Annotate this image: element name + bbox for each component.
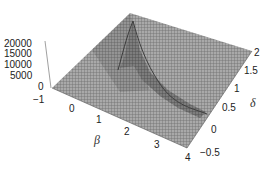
beta-tick: 2 bbox=[124, 127, 130, 137]
delta-tick: 1 bbox=[234, 84, 240, 94]
beta-tick: 4 bbox=[185, 153, 191, 163]
z-axis-line bbox=[45, 41, 51, 88]
z-tick: 10000 bbox=[4, 60, 32, 70]
z-tick: 15000 bbox=[4, 49, 32, 59]
delta-tick: 0.5 bbox=[222, 103, 236, 113]
beta-tick: 0 bbox=[69, 104, 75, 114]
delta-tick: 1.5 bbox=[244, 66, 258, 76]
delta-axis-label: δ bbox=[250, 96, 256, 111]
delta-tick: 0 bbox=[211, 125, 217, 135]
beta-axis-label: β bbox=[94, 133, 100, 148]
beta-tick: 1 bbox=[96, 115, 102, 125]
z-tick: 5000 bbox=[10, 71, 32, 81]
delta-tick: 2 bbox=[254, 48, 260, 58]
delta-tick: −0.5 bbox=[200, 148, 220, 158]
z-tick: 0 bbox=[38, 82, 44, 92]
beta-tick: −1 bbox=[33, 95, 44, 105]
beta-tick: 3 bbox=[154, 140, 160, 150]
